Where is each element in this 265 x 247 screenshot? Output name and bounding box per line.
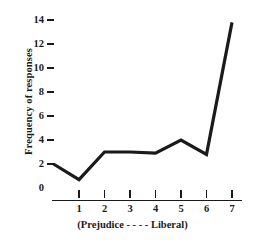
frequency-of-responses-line-chart: Frequency of responses 14 12 10 8 6 4 2 … (0, 0, 265, 247)
x-tick-mark-4 (155, 190, 157, 198)
x-tick-mark-7 (231, 190, 233, 198)
x-tick-mark-3 (129, 190, 131, 198)
x-axis-caption: (Prejudice - - - - Liberal) (0, 219, 265, 230)
x-tick-label-6: 6 (199, 203, 215, 214)
x-tick-label-7: 7 (224, 203, 240, 214)
x-axis-line (52, 200, 242, 202)
x-tick-label-4: 4 (148, 203, 164, 214)
x-tick-mark-2 (104, 190, 106, 198)
x-tick-label-3: 3 (122, 203, 138, 214)
x-tick-mark-6 (206, 190, 208, 198)
x-tick-label-5: 5 (173, 203, 189, 214)
x-tick-label-1: 1 (71, 203, 87, 214)
x-tick-label-2: 2 (97, 203, 113, 214)
x-tick-mark-1 (78, 190, 80, 198)
x-tick-mark-5 (180, 190, 182, 198)
